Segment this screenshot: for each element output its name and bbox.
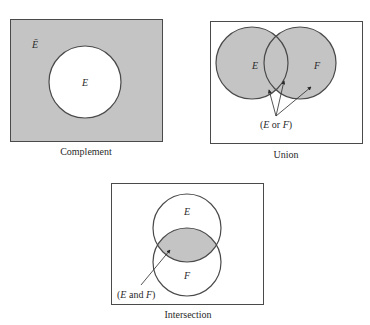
intersection-annotation: (E and F) [117,289,155,301]
intersection-set-f-label: F [183,270,191,281]
intersection-set-e-label: E [183,206,190,217]
union-set-e-label: E [251,60,258,71]
complement-diagram: Ē E Complement [11,20,163,158]
union-annotation: (E or F) [260,119,292,131]
union-diagram: E F (E or F) Union [211,22,363,161]
complement-set-label: E [81,77,88,88]
intersection-caption: Intersection [164,309,211,320]
complement-outside-label: Ē [31,39,38,50]
union-caption: Union [274,149,299,160]
union-set-f-label: F [313,60,321,71]
complement-caption: Complement [60,146,112,157]
venn-diagrams: Ē E Complement E F (E or F) Union E F (E… [0,0,370,325]
intersection-diagram: E F (E and F) Intersection [112,184,264,321]
